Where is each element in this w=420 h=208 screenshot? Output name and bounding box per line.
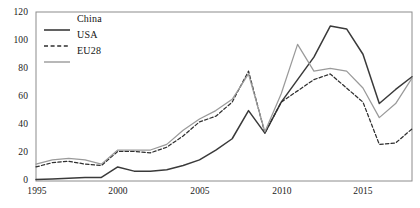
y-tick-20: 20 xyxy=(2,147,28,157)
x-tick-1995: 1995 xyxy=(17,186,57,196)
y-tick-100: 100 xyxy=(2,35,28,45)
line-chart: 120 100 80 60 40 20 0 1995 2000 2005 201… xyxy=(0,0,420,208)
legend-swatch-china-icon xyxy=(44,18,70,20)
x-tick-2005: 2005 xyxy=(180,186,220,196)
legend-label-eu28: EU28 xyxy=(77,45,101,57)
legend: China USA EU28 xyxy=(44,12,102,57)
y-tick-40: 40 xyxy=(2,119,28,129)
legend-item-china: China xyxy=(44,12,102,25)
x-tick-2015: 2015 xyxy=(343,186,383,196)
y-tick-0: 0 xyxy=(2,175,28,185)
legend-label-china: China xyxy=(77,13,102,25)
legend-label-usa: USA xyxy=(77,29,98,41)
y-tick-120: 120 xyxy=(2,7,28,17)
legend-swatch-eu28-icon xyxy=(44,50,70,52)
y-tick-80: 80 xyxy=(2,63,28,73)
x-tick-2010: 2010 xyxy=(262,186,302,196)
series-line-eu28 xyxy=(36,44,412,164)
x-tick-2000: 2000 xyxy=(98,186,138,196)
legend-swatch-usa-icon xyxy=(44,34,70,36)
series-line-usa xyxy=(36,71,412,167)
y-tick-60: 60 xyxy=(2,91,28,101)
